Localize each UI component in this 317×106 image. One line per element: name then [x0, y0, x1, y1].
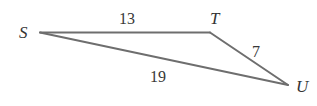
side-length-label-su: 19 [150, 69, 166, 85]
side-length-label-tu: 7 [252, 44, 260, 60]
vertex-label-t: T [210, 10, 219, 27]
side-length-label-st: 13 [119, 11, 135, 27]
vertex-label-u: U [296, 78, 308, 95]
triangle-graphic [0, 0, 317, 106]
vertex-label-s: S [19, 24, 28, 41]
triangle-diagram: S T U 13 7 19 [0, 0, 317, 106]
